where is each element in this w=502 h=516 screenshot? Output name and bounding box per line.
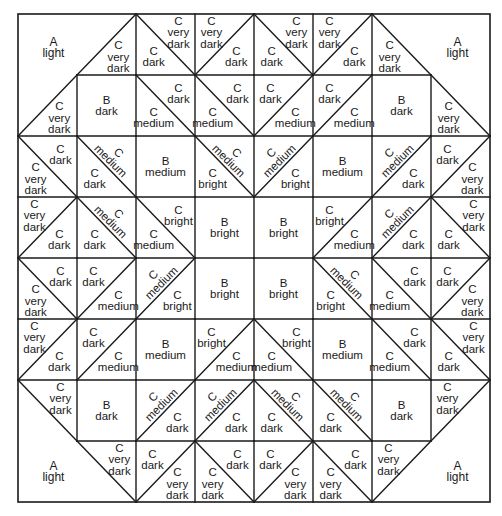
piece-shade: very: [166, 478, 188, 490]
piece-shade: dark: [48, 123, 71, 135]
piece-shade: dark: [461, 184, 484, 196]
piece-letter: C: [350, 106, 358, 118]
piece-shade: medium: [133, 239, 174, 251]
piece-shade: very: [25, 173, 47, 185]
piece-shade: medium: [369, 361, 410, 373]
piece-label-c-medium: Cmedium: [133, 228, 174, 252]
piece-shade: very: [378, 453, 400, 465]
piece-letter: C: [292, 15, 300, 27]
piece-letter: B: [280, 216, 288, 228]
piece-label-c-very-dark: Cverydark: [25, 161, 48, 196]
piece-label-c-dark: Cdark: [438, 228, 461, 252]
piece-label-c-dark: Cdark: [166, 411, 189, 435]
piece-letter: C: [56, 381, 64, 393]
piece-shade: dark: [143, 56, 166, 68]
piece-letter: C: [386, 350, 394, 362]
piece-shade: dark: [95, 105, 118, 117]
piece-label-c-medium: Cmedium: [334, 228, 375, 252]
piece-label-c-medium: Cmedium: [334, 106, 375, 130]
piece-shade: dark: [95, 410, 118, 422]
piece-letter: C: [32, 161, 40, 173]
piece-shade: dark: [259, 93, 282, 105]
piece-shade: very: [50, 392, 72, 404]
piece-shade: dark: [200, 38, 223, 50]
piece-shade: very: [461, 173, 483, 185]
piece-shade: dark: [318, 38, 341, 50]
piece-letter: C: [445, 100, 453, 112]
piece-shade: bright: [269, 227, 299, 239]
piece-letter: C: [174, 15, 182, 27]
piece-shade: dark: [84, 178, 107, 190]
piece-letter: C: [386, 289, 394, 301]
piece-label-c-bright: Cbright: [315, 204, 345, 228]
piece-shade: dark: [390, 410, 413, 422]
piece-label-c-dark: Cdark: [82, 326, 105, 350]
piece-shade: medium: [133, 117, 174, 129]
piece-label-c-dark: Cdark: [259, 448, 282, 472]
piece-label-c-bright: Cbright: [281, 167, 311, 191]
piece-letter: C: [291, 466, 299, 478]
piece-label-c-very-dark: Cverydark: [461, 283, 484, 318]
piece-shade: medium: [275, 117, 316, 129]
piece-shade: dark: [318, 93, 341, 105]
piece-label-c-very-dark: Cverydark: [462, 198, 485, 233]
piece-shade: bright: [281, 178, 311, 190]
piece-shade: dark: [167, 93, 190, 105]
piece-letter: C: [209, 106, 217, 118]
piece-letter: C: [443, 143, 451, 155]
piece-label-c-dark: Cdark: [225, 411, 248, 435]
piece-shade: medium: [251, 361, 292, 373]
piece-label-c-medium: Cmedium: [98, 350, 139, 374]
piece-shade: bright: [316, 300, 346, 312]
piece-shade: dark: [261, 422, 284, 434]
piece-shade: very: [284, 478, 306, 490]
piece-shade: bright: [198, 178, 228, 190]
piece-letter: C: [56, 143, 64, 155]
piece-shade: dark: [402, 239, 425, 251]
piece-label-c-dark: Cdark: [49, 265, 72, 289]
piece-label-c-very-dark: Cverydark: [49, 381, 72, 416]
piece-shade: light: [447, 46, 470, 60]
piece-letter: C: [268, 350, 276, 362]
piece-shade: dark: [461, 306, 484, 318]
piece-shade: dark: [259, 459, 282, 471]
piece-shade: dark: [48, 361, 71, 373]
piece-letter: C: [468, 283, 476, 295]
piece-letter: C: [327, 466, 335, 478]
piece-letter: C: [232, 45, 240, 57]
piece-letter: C: [174, 204, 182, 216]
piece-label-c-dark: Cdark: [143, 45, 166, 68]
piece-shade: dark: [82, 276, 105, 288]
piece-label-c-dark: Cdark: [343, 45, 366, 68]
piece-shade: medium: [192, 117, 233, 129]
piece-shade: dark: [23, 221, 46, 233]
piece-label-c-dark: Cdark: [402, 228, 425, 252]
piece-shade: bright: [282, 337, 312, 349]
piece-label-c-dark: Cdark: [261, 45, 284, 68]
piece-letter: B: [103, 94, 111, 106]
piece-shade: light: [447, 470, 470, 484]
piece-label-c-very-dark: Cverydark: [48, 100, 71, 135]
piece-label-c-medium: Cmedium: [251, 350, 292, 374]
piece-shade: dark: [48, 239, 71, 251]
piece-label-c-bright: Cbright: [282, 326, 312, 350]
piece-letter: C: [209, 466, 217, 478]
piece-letter: C: [233, 448, 241, 460]
piece-label-c-medium: Cmedium: [369, 289, 410, 313]
piece-shade: dark: [226, 93, 249, 105]
piece-label-c-very-dark: Cverydark: [25, 283, 48, 318]
piece-letter: C: [89, 326, 97, 338]
piece-letter: C: [445, 350, 453, 362]
piece-letter: C: [150, 45, 158, 57]
piece-letter: C: [32, 283, 40, 295]
piece-label-c-very-dark: Cverydark: [284, 466, 307, 501]
piece-label-c-dark: Cdark: [141, 448, 164, 472]
piece-label-c-very-dark: Cverydark: [166, 466, 189, 501]
piece-letter: C: [443, 265, 451, 277]
piece-label-c-very-dark: Cverydark: [436, 381, 459, 416]
piece-label-c-very-dark: Cverydark: [107, 39, 130, 74]
piece-shade: medium: [145, 349, 186, 361]
piece-shade: dark: [108, 465, 131, 477]
piece-label-c-very-dark: Cverydark: [320, 466, 343, 501]
piece-letter: C: [148, 448, 156, 460]
